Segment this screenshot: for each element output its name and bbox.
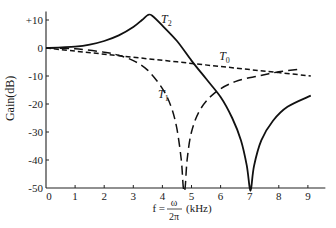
series-t1 [46, 48, 302, 192]
y-tick-label: -50 [28, 182, 43, 194]
y-tick-label: -20 [28, 98, 43, 110]
x-tick-label: 8 [276, 190, 282, 202]
label-t0: T0 [219, 49, 230, 65]
x-tick-label: 7 [247, 190, 253, 202]
y-axis-title: Gain(dB) [3, 76, 17, 121]
x-tick-label: 0 [46, 190, 52, 202]
x-axis-title-numerator: ω [171, 197, 178, 208]
gain-chart: +100-10-20-30-40-500123456789 T2T0T1 Gai… [0, 0, 336, 228]
x-axis-title-unit: (kHz) [186, 202, 212, 215]
x-axis-title-denominator: 2π [169, 211, 179, 222]
chart-svg: +100-10-20-30-40-500123456789 T2T0T1 Gai… [0, 0, 336, 228]
x-tick-label: 3 [131, 190, 137, 202]
series-group [46, 14, 311, 191]
x-tick-label: 4 [160, 190, 166, 202]
label-t2: T2 [161, 12, 172, 28]
x-tick-label: 1 [72, 190, 78, 202]
label-t1: T1 [158, 87, 169, 103]
x-tick-label: 5 [189, 190, 195, 202]
series-t0 [46, 48, 311, 76]
series-labels: T2T0T1 [158, 12, 230, 103]
y-tick-label: -10 [28, 70, 43, 82]
y-tick-label: -40 [28, 154, 43, 166]
x-tick-label: 2 [101, 190, 107, 202]
y-tick-label: -30 [28, 126, 43, 138]
series-t2 [46, 14, 311, 190]
y-tick-label: 0 [38, 42, 44, 54]
x-axis-title-prefix: f = [152, 202, 165, 214]
x-tick-label: 6 [218, 190, 224, 202]
x-tick-label: 9 [305, 190, 311, 202]
y-tick-label: +10 [26, 14, 44, 26]
